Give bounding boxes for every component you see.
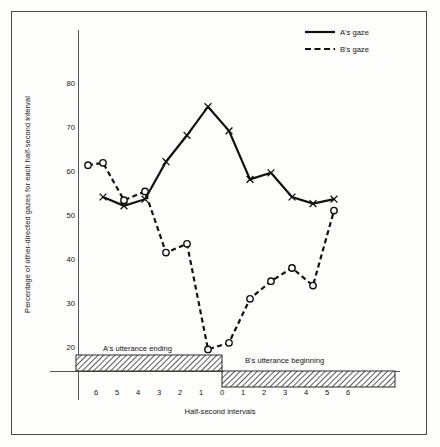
series-line-b-gaze: [88, 163, 334, 350]
band-b-utterance-beginning: [222, 371, 395, 387]
series-line-a-gaze: [103, 107, 334, 206]
data-point-a-4: [163, 158, 170, 165]
data-point-b-13: [331, 207, 337, 213]
data-point-b-10: [268, 278, 274, 284]
data-point-b-11: [289, 265, 295, 271]
data-point-b-1: [85, 162, 91, 168]
data-point-b-7: [205, 346, 211, 352]
data-point-b-9: [247, 296, 253, 302]
data-point-b-2: [100, 160, 106, 166]
data-point-b-3: [121, 197, 127, 203]
data-point-a-6: [205, 103, 212, 110]
band-a-utterance-ending: [76, 355, 222, 371]
data-point-b-6: [184, 241, 190, 247]
data-point-b-8: [226, 340, 232, 346]
series-markers-b-gaze: [85, 160, 337, 353]
data-point-b-12: [310, 282, 316, 288]
chart-plot-area: [0, 0, 440, 447]
data-point-a-5: [184, 132, 191, 139]
data-point-b-5: [163, 249, 169, 255]
figure-container: Percentage of other-directed gazes for e…: [0, 0, 440, 447]
